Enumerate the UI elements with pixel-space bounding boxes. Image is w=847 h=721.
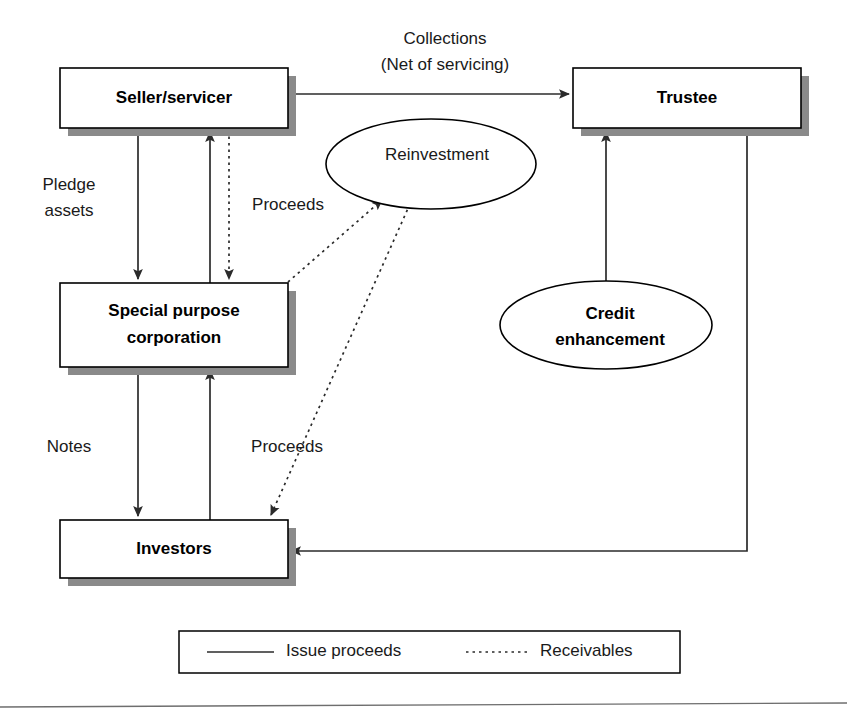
credit-enhancement-label-line1: Credit [585, 304, 634, 323]
pledge-assets-label-line2: assets [44, 201, 93, 220]
node-trustee[interactable]: Trustee [573, 68, 809, 136]
trustee-label: Trustee [657, 88, 717, 107]
node-seller-servicer[interactable]: Seller/servicer [60, 68, 296, 136]
legend-label-issue-proceeds: Issue proceeds [286, 641, 401, 660]
collections-label-line2: (Net of servicing) [381, 55, 509, 74]
proceeds-lower-label: Proceeds [251, 437, 323, 456]
proceeds-upper-label: Proceeds [252, 195, 324, 214]
node-investors[interactable]: Investors [60, 520, 296, 586]
pledge-assets-label-line1: Pledge [43, 175, 96, 194]
node-credit-enhancement[interactable]: Credit enhancement [500, 281, 712, 369]
node-special-purpose-corporation[interactable]: Special purpose corporation [60, 283, 296, 375]
special-purpose-corporation-box[interactable] [60, 283, 288, 367]
notes-label: Notes [47, 437, 91, 456]
diagram-page: Seller/servicer Trustee Special purpose … [0, 0, 847, 721]
seller-servicer-label: Seller/servicer [116, 88, 233, 107]
special-purpose-corporation-label-line1: Special purpose [108, 301, 239, 320]
node-reinvestment[interactable]: Reinvestment [326, 119, 536, 209]
collections-label-line1: Collections [403, 29, 486, 48]
securitization-flow-diagram: Seller/servicer Trustee Special purpose … [0, 0, 847, 721]
legend: Issue proceeds Receivables [179, 631, 680, 673]
credit-enhancement-ellipse[interactable] [500, 281, 712, 369]
legend-label-receivables: Receivables [540, 641, 633, 660]
investors-label: Investors [136, 539, 212, 558]
page-bottom-rule [0, 703, 847, 707]
reinvestment-label: Reinvestment [385, 145, 489, 164]
credit-enhancement-label-line2: enhancement [555, 330, 665, 349]
special-purpose-corporation-label-line2: corporation [127, 328, 221, 347]
